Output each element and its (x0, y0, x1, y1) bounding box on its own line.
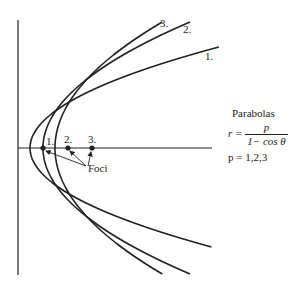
parabolas-diagram: 1. 2. 3. 1. 2. 3. Foci Parabolas r = p 1… (0, 0, 305, 298)
focus-point-2 (65, 145, 70, 150)
curve-label-1: 1. (205, 50, 214, 62)
curve-label-3: 3. (160, 17, 169, 29)
diagram-canvas: 1. 2. 3. 1. 2. 3. Foci (0, 0, 305, 298)
foci-arrow-1 (46, 151, 86, 166)
formula-denominator: 1− cos θ (245, 134, 288, 147)
focus-point-1 (40, 145, 45, 150)
formula-fraction: p 1− cos θ (245, 122, 288, 147)
caption-params: p = 1,2,3 (228, 152, 267, 163)
caption-formula: r = p 1− cos θ (228, 122, 288, 147)
curve-label-2: 2. (183, 23, 192, 35)
focus-label-3: 3. (88, 133, 97, 145)
focus-label-1: 1. (46, 135, 55, 147)
foci-arrow-2 (70, 151, 86, 166)
focus-point-3 (89, 145, 94, 150)
formula-lhs: r = (228, 127, 242, 139)
formula-numerator: p (245, 122, 288, 134)
parabola-p1 (30, 47, 219, 247)
caption-title: Parabolas (232, 108, 275, 119)
foci-label: Foci (88, 162, 108, 174)
focus-label-2: 2. (64, 133, 73, 145)
